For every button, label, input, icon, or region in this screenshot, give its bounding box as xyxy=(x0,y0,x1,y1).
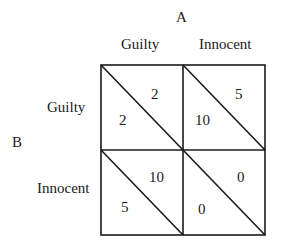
payoff-b-innocent-guilty: 5 xyxy=(121,200,129,215)
cell-diagonal-gi xyxy=(183,65,265,150)
cell-diagonal-ig xyxy=(101,150,183,235)
cell-diagonal-ii xyxy=(183,150,265,235)
payoff-b-guilty-innocent: 10 xyxy=(195,113,210,128)
payoff-b-guilty-guilty: 2 xyxy=(119,113,127,128)
payoff-a-innocent-guilty: 10 xyxy=(149,170,164,185)
cell-diagonal-gg xyxy=(101,65,183,150)
payoff-a-innocent-innocent: 0 xyxy=(237,170,245,185)
payoff-a-guilty-guilty: 2 xyxy=(151,87,159,102)
payoff-a-guilty-innocent: 5 xyxy=(235,87,243,102)
payoff-grid xyxy=(0,0,282,250)
payoff-b-innocent-innocent: 0 xyxy=(198,202,206,217)
